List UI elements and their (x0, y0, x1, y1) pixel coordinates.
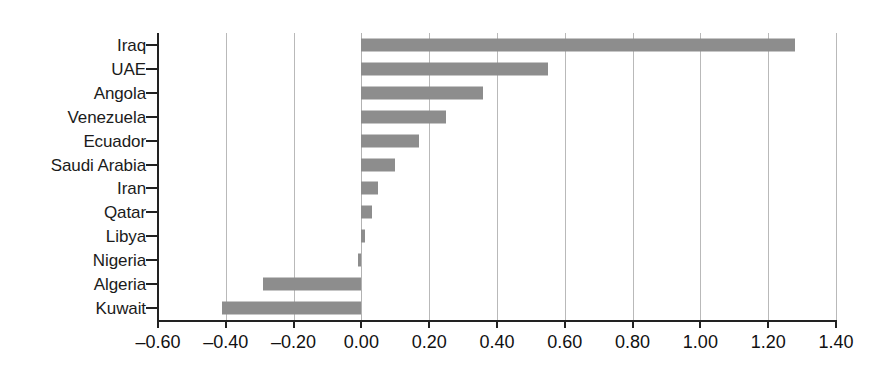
bar-row (158, 272, 836, 296)
y-axis-tick (146, 259, 158, 261)
y-axis-label-slot: Venezuela (0, 105, 146, 129)
x-axis-tick (428, 320, 430, 328)
y-axis-tick (146, 235, 158, 237)
bar (263, 278, 361, 291)
y-axis-tick-label: Libya (6, 228, 146, 245)
y-axis-tick (146, 116, 158, 118)
y-axis-tick-label: Qatar (6, 204, 146, 221)
y-axis-line (157, 33, 159, 322)
y-axis-label-slot: Kuwait (0, 296, 146, 320)
bar-row (158, 224, 836, 248)
bar (358, 254, 361, 267)
y-axis-tick (146, 140, 158, 142)
y-axis-tick (146, 92, 158, 94)
y-axis-tick-label: Nigeria (6, 252, 146, 269)
x-axis-tick (767, 320, 769, 328)
bar (361, 134, 419, 147)
x-axis-tick (496, 320, 498, 328)
y-axis-label-slot: Ecuador (0, 129, 146, 153)
y-axis-tick-label: Angola (6, 84, 146, 101)
y-axis-tick-label: UAE (6, 60, 146, 77)
y-axis-tick-label: Iraq (6, 36, 146, 53)
gridline (836, 33, 837, 320)
bar-row (158, 81, 836, 105)
y-axis-label-slot: Iraq (0, 33, 146, 57)
y-axis-tick-label: Iran (6, 180, 146, 197)
x-axis-tick (225, 320, 227, 328)
y-axis-tick-label: Kuwait (6, 300, 146, 317)
y-axis-tick (146, 44, 158, 46)
bar-row (158, 33, 836, 57)
y-axis-label-slot: Iran (0, 177, 146, 201)
bar-row (158, 296, 836, 320)
bar (361, 62, 547, 75)
y-axis-tick (146, 211, 158, 213)
y-axis-tick (146, 283, 158, 285)
bar (361, 38, 795, 51)
y-axis-tick-label: Algeria (6, 276, 146, 293)
x-axis-tick (835, 320, 837, 328)
y-axis-tick (146, 164, 158, 166)
x-axis-tick (632, 320, 634, 328)
y-axis-tick-label: Saudi Arabia (6, 156, 146, 173)
bar-chart: IraqUAEAngolaVenezuelaEcuadorSaudi Arabi… (0, 0, 891, 383)
bar-row (158, 105, 836, 129)
x-axis-tick (699, 320, 701, 328)
y-axis-label-slot: Libya (0, 224, 146, 248)
x-axis-tick (360, 320, 362, 328)
y-axis-tick-label: Ecuador (6, 132, 146, 149)
x-axis-tick (293, 320, 295, 328)
y-axis-tick (146, 187, 158, 189)
bar (222, 302, 361, 315)
y-axis-label-slot: Angola (0, 81, 146, 105)
bar-row (158, 248, 836, 272)
y-axis-tick-label: Venezuela (6, 108, 146, 125)
bar (361, 158, 395, 171)
bar-row (158, 153, 836, 177)
x-axis-tick (157, 320, 159, 328)
y-axis-tick (146, 68, 158, 70)
y-axis-label-slot: Nigeria (0, 248, 146, 272)
bar-row (158, 200, 836, 224)
bar-row (158, 57, 836, 81)
y-axis-label-slot: Qatar (0, 200, 146, 224)
x-axis-tick-label: 1.40 (791, 333, 881, 351)
bar (361, 86, 483, 99)
bar-row (158, 129, 836, 153)
y-axis-label-slot: Saudi Arabia (0, 153, 146, 177)
plot-area (158, 33, 836, 320)
bar (361, 206, 371, 219)
bar (361, 110, 446, 123)
bar (361, 182, 378, 195)
y-axis-label-slot: Algeria (0, 272, 146, 296)
x-axis-tick (564, 320, 566, 328)
y-axis-label-slot: UAE (0, 57, 146, 81)
bar (361, 230, 364, 243)
y-axis-tick (146, 307, 158, 309)
bar-row (158, 177, 836, 201)
